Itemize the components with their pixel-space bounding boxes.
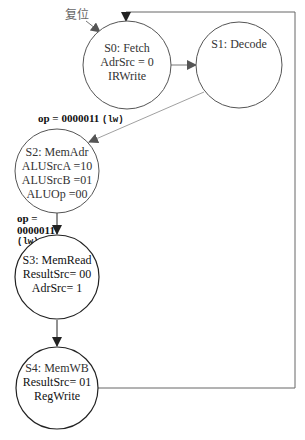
reset-label: 复位 [65,7,89,22]
state-s1: S1: Decode [196,22,282,108]
svg-text:ResultSrc= 00: ResultSrc= 00 [23,267,91,281]
state-s3: S3: MemRead ResultSrc= 00 AdrSrc= 1 [15,235,99,319]
state-diagram: 复位 op = 0000011 (lw) op = 0000011 (lw) S… [0,0,305,440]
svg-text:S3: MemRead: S3: MemRead [23,253,92,267]
svg-text:ALUSrcA =10: ALUSrcA =10 [22,159,92,173]
svg-text:S0: Fetch: S0: Fetch [104,41,150,55]
svg-text:RegWrite: RegWrite [34,389,80,403]
transition-s1-to-s2-condition: op = 0000011 (lw) [38,112,124,125]
svg-text:IRWrite: IRWrite [108,69,146,83]
transition-s2-to-s3-cond-1: op = [17,212,38,224]
reset-arrow [86,21,100,32]
svg-text:ALUSrcB =01: ALUSrcB =01 [22,173,92,187]
svg-text:S1: Decode: S1: Decode [211,37,267,51]
state-s4: S4: MemWB ResultSrc= 01 RegWrite [16,347,98,429]
svg-text:S4: MemWB: S4: MemWB [25,361,89,375]
svg-text:ALUOp =00: ALUOp =00 [26,187,87,201]
svg-text:S2: MemAdr: S2: MemAdr [26,145,89,159]
transition-s2-to-s3-cond-2: 0000011 [17,224,55,236]
state-s2: S2: MemAdr ALUSrcA =10 ALUSrcB =01 ALUOp… [15,129,99,213]
state-s0: S0: Fetch AdrSrc = 0 IRWrite [83,21,171,109]
svg-text:AdrSrc = 0: AdrSrc = 0 [100,55,153,69]
svg-text:ResultSrc= 01: ResultSrc= 01 [23,375,91,389]
svg-text:AdrSrc= 1: AdrSrc= 1 [32,281,82,295]
